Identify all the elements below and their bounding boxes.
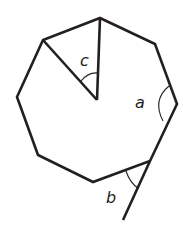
angle-c-arc (80, 73, 98, 82)
radius-to-top-vertex (97, 18, 100, 100)
angle-b-arc (126, 171, 138, 188)
angle-c-label: c (80, 51, 89, 70)
octagon-diagram: c a b (0, 0, 183, 239)
radius-to-top-left-vertex (43, 40, 97, 100)
angle-b-label: b (106, 188, 116, 207)
angle-a-label: a (135, 93, 145, 112)
angle-a-arc (159, 86, 169, 121)
